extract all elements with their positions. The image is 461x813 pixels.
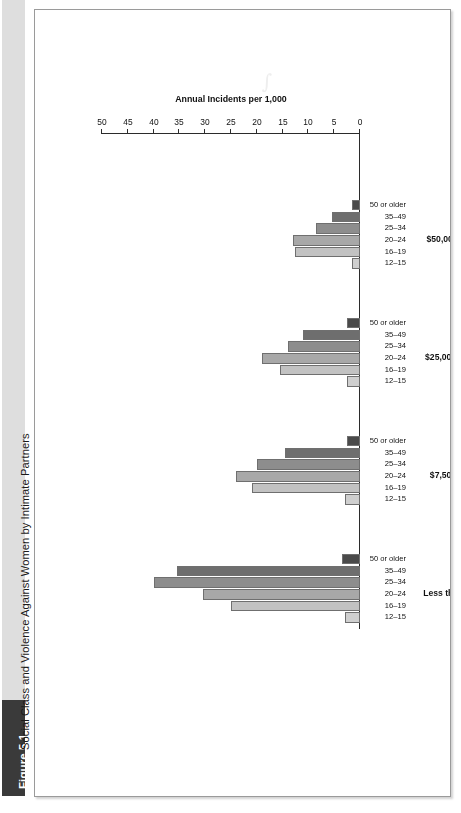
group-axis-label: $25,000–$49,999 [410, 352, 451, 363]
value-axis-tick-label: 50 [91, 117, 113, 127]
bar [285, 448, 360, 459]
value-axis-tick-label: 15 [272, 117, 294, 127]
value-axis-tick-label: 30 [194, 117, 216, 127]
value-axis-tick [282, 129, 283, 134]
caption-strip: Figure 5.1 Social Class and Violence Aga… [0, 0, 27, 813]
category-tick-label: 16–19 [364, 365, 406, 375]
bar [316, 223, 360, 234]
value-axis-line [102, 133, 360, 134]
value-axis-tick-label: 0 [349, 117, 371, 127]
value-axis-tick-label: 40 [143, 117, 165, 127]
bar-group: 12–1516–1920–2425–3435–4950 or older$50,… [102, 151, 360, 269]
value-axis-tick-label: 35 [168, 117, 190, 127]
bar-group: 12–1516–1920–2425–3435–4950 or older$25,… [102, 269, 360, 387]
bar [296, 247, 361, 258]
category-tick-label: 25–34 [364, 459, 406, 469]
bar-group: 12–1516–1920–2425–3435–4950 or older$7,5… [102, 387, 360, 505]
value-axis-tick-label: 25 [220, 117, 242, 127]
bar [347, 436, 360, 447]
category-tick-label: 35–49 [364, 566, 406, 576]
bar [257, 459, 360, 470]
category-tick-label: 20–24 [364, 589, 406, 599]
bar [347, 377, 360, 388]
value-axis-tick [101, 129, 102, 134]
category-tick-label: 25–34 [364, 341, 406, 351]
group-axis-label: $7,500–$24,999 [410, 470, 451, 481]
value-axis-tick-label: 20 [246, 117, 268, 127]
bar [347, 318, 360, 329]
bar [280, 365, 360, 376]
bar [203, 589, 360, 600]
category-tick-label: 12–15 [364, 495, 406, 505]
chart-frame: 12–1516–1920–2425–3435–4950 or olderLess… [34, 9, 451, 797]
category-tick-label: 12–15 [364, 377, 406, 387]
bar-group: 12–1516–1920–2425–3435–4950 or olderLess… [102, 505, 360, 623]
bar [352, 200, 360, 211]
bar [303, 330, 360, 341]
figure-page: Figure 5.1 Social Class and Violence Aga… [0, 0, 461, 813]
category-tick-label: 16–19 [364, 601, 406, 611]
category-tick-label: 50 or older [364, 318, 406, 328]
bar [352, 259, 360, 270]
value-axis-tick [333, 129, 334, 134]
plot-area: 12–1516–1920–2425–3435–4950 or olderLess… [102, 134, 360, 629]
figure-caption: Social Class and Violence Against Women … [19, 433, 31, 750]
bar [345, 495, 360, 506]
category-tick-label: 20–24 [364, 471, 406, 481]
bar [177, 566, 360, 577]
category-tick-label: 16–19 [364, 483, 406, 493]
bar [236, 471, 360, 482]
category-tick-label: 50 or older [364, 436, 406, 446]
category-tick-label: 35–49 [364, 330, 406, 340]
category-tick-label: 50 or older [364, 200, 406, 210]
category-tick-label: 12–15 [364, 259, 406, 269]
value-axis-tick [359, 129, 360, 134]
watermark-glyph: ∫ [262, 72, 272, 96]
bar [293, 235, 360, 246]
value-axis-tick [256, 129, 257, 134]
category-tick-label: 20–24 [364, 235, 406, 245]
bar [154, 577, 360, 588]
bar [288, 341, 360, 352]
value-axis-tick [178, 129, 179, 134]
group-axis-label: $50,000 or more [410, 234, 451, 245]
group-axis-label: Less than $7,500 [410, 588, 451, 599]
value-axis-tick [127, 129, 128, 134]
value-axis-tick [204, 129, 205, 134]
value-axis-tick-label: 45 [117, 117, 139, 127]
value-axis: Annual Incidents per 1,000 0510152025303… [102, 74, 360, 134]
value-axis-tick-label: 10 [297, 117, 319, 127]
value-axis-tick [153, 129, 154, 134]
category-tick-label: 16–19 [364, 247, 406, 257]
category-tick-label: 25–34 [364, 223, 406, 233]
category-tick-label: 35–49 [364, 212, 406, 222]
bar [345, 613, 360, 624]
value-axis-tick-label: 5 [323, 117, 345, 127]
bar [231, 601, 360, 612]
category-tick-label: 50 or older [364, 554, 406, 564]
bar [342, 554, 360, 565]
value-axis-title: Annual Incidents per 1,000 [102, 94, 360, 104]
value-axis-tick [230, 129, 231, 134]
chart-rotated-canvas: 12–1516–1920–2425–3435–4950 or olderLess… [35, 10, 450, 796]
bar [332, 212, 360, 223]
bar [262, 353, 360, 364]
category-tick-label: 12–15 [364, 613, 406, 623]
category-tick-label: 20–24 [364, 353, 406, 363]
value-axis-tick [307, 129, 308, 134]
category-tick-label: 25–34 [364, 577, 406, 587]
category-tick-label: 35–49 [364, 448, 406, 458]
bar [252, 483, 360, 494]
